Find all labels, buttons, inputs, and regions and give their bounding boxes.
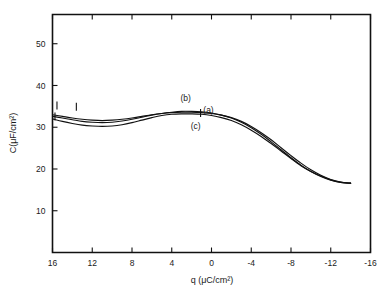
plot-frame — [53, 15, 371, 253]
x-tick-label-4: 4 — [169, 258, 174, 268]
y-tick-label-40: 40 — [36, 81, 46, 91]
figure-container: 1020304050 1612840-4-8-12-16 (a)(b)(c) q… — [0, 0, 388, 293]
x-tick-label--16: -16 — [364, 258, 377, 268]
y-tick-label-30: 30 — [36, 122, 46, 132]
curve-b — [53, 111, 351, 183]
capacitance-vs-charge-chart: 1020304050 1612840-4-8-12-16 (a)(b)(c) q… — [0, 0, 388, 293]
x-tick-label-8: 8 — [130, 258, 135, 268]
curve-markers — [55, 102, 201, 121]
curve-label-b: (b) — [180, 93, 191, 103]
x-axis-ticks: 1612840-4-8-12-16 — [48, 15, 377, 268]
curve-label-a: (a) — [203, 105, 214, 115]
curve-label-c: (c) — [191, 121, 201, 131]
x-tick-label-0: 0 — [209, 258, 214, 268]
x-tick-label--12: -12 — [325, 258, 338, 268]
y-tick-label-10: 10 — [36, 206, 46, 216]
y-tick-label-20: 20 — [36, 164, 46, 174]
x-tick-label--8: -8 — [287, 258, 295, 268]
y-axis-ticks: 1020304050 — [36, 39, 57, 216]
y-tick-label-50: 50 — [36, 39, 46, 49]
data-curves — [53, 111, 351, 183]
x-tick-label-16: 16 — [48, 258, 58, 268]
y-axis-label: C(μF/cm²) — [8, 113, 18, 154]
x-axis-label: q (μC/cm²) — [191, 275, 234, 285]
x-tick-label-12: 12 — [88, 258, 98, 268]
curve-c — [53, 114, 351, 183]
x-tick-label--4: -4 — [247, 258, 255, 268]
